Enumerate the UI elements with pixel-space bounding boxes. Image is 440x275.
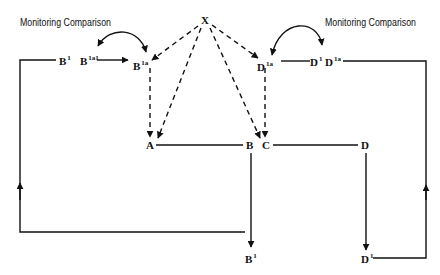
x-to-d1a-dashed xyxy=(212,25,258,58)
x-to-c-dashed xyxy=(210,28,260,138)
right-monitoring-arrow xyxy=(272,26,322,55)
node-d1-top: D1 xyxy=(310,56,322,68)
node-b: B xyxy=(246,140,253,151)
node-b1-bottom: B1 xyxy=(245,253,257,265)
node-d1a-right: D1a xyxy=(325,56,341,68)
node-d1-bottom: D1 xyxy=(361,253,373,265)
diagram-canvas xyxy=(0,0,440,275)
left-annotation: Monitoring Comparison xyxy=(20,17,111,28)
node-b1a: B1a xyxy=(133,60,148,72)
node-b1a1: B1a1 xyxy=(80,55,99,67)
node-x: X xyxy=(201,15,209,26)
node-c: C xyxy=(262,140,270,151)
left-monitoring-arrow xyxy=(98,32,146,52)
x-to-a-dashed xyxy=(158,28,201,138)
node-b1-top: B1 xyxy=(59,55,71,67)
right-loop-line xyxy=(343,61,426,258)
node-a: A xyxy=(146,140,154,151)
right-annotation: Monitoring Comparison xyxy=(325,17,416,28)
left-loop-line xyxy=(20,60,245,232)
node-d1a-left: D1a xyxy=(257,61,273,73)
node-d: D xyxy=(361,140,369,151)
